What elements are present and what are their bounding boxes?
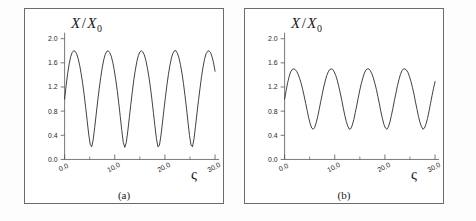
y-tick-label-a-5: 2.0 [48,35,58,42]
y-tick-label-b-1: 0.4 [268,132,278,139]
panel-b: X/X0 0.00.40.81.21.62.00.010.020.030.0 ς… [244,8,444,204]
panel-a: X/X0 0.00.40.81.21.62.00.010.020.030.0 ς… [24,8,224,204]
y-tick-label-b-4: 1.6 [268,59,278,66]
data-curve-b [285,69,435,129]
x-axis-label-b: ς [411,166,417,183]
y-tick-label-a-1: 0.4 [48,132,58,139]
panel-caption-b: (b) [245,189,443,201]
x-tick-label-a-2: 20.0 [156,161,171,174]
y-tick-label-b-2: 0.8 [268,108,278,115]
x-tick-label-b-3: 30.0 [426,161,441,174]
x-tick-label-b-2: 20.0 [376,161,391,174]
x-axis-label-a: ς [191,166,197,183]
y-tick-label-a-4: 1.6 [48,59,58,66]
figure-container: X/X0 0.00.40.81.21.62.00.010.020.030.0 ς… [0,0,476,221]
y-tick-label-a-3: 1.2 [48,83,58,90]
x-tick-label-b-1: 10.0 [326,161,341,174]
x-tick-label-a-1: 10.0 [106,161,121,174]
y-tick-label-b-0: 0.0 [268,156,278,163]
x-tick-label-b-0: 0.0 [278,162,290,173]
panel-caption-a: (a) [25,189,223,201]
y-tick-label-b-3: 1.2 [268,83,278,90]
y-tick-label-a-0: 0.0 [48,156,58,163]
data-curve-a [65,51,215,148]
x-tick-label-a-0: 0.0 [58,162,70,173]
x-tick-label-a-3: 30.0 [206,161,221,174]
y-tick-label-a-2: 0.8 [48,108,58,115]
y-tick-label-b-5: 2.0 [268,35,278,42]
